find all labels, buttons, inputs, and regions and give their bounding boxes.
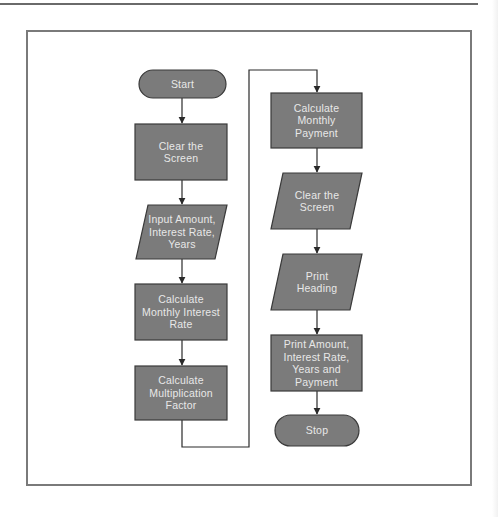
- node-clear-screen-2-data: [271, 173, 362, 229]
- flowchart: [0, 0, 498, 517]
- node-calc-factor-process: [135, 366, 227, 420]
- node-stop-terminator: [275, 415, 359, 446]
- node-start-terminator: [139, 70, 226, 98]
- node-print-heading-data: [271, 254, 362, 310]
- node-print-results-process: [271, 335, 362, 391]
- node-calc-payment-process: [271, 93, 362, 148]
- node-calc-rate-process: [135, 284, 227, 340]
- node-clear-screen-1-process: [135, 124, 227, 180]
- node-input-data: [136, 205, 227, 259]
